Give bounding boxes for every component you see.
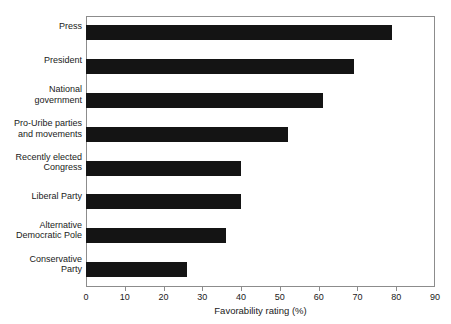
chart-figure: PressPresidentNationalgovernmentPro-Urib… [0, 0, 451, 324]
tick-label: 40 [236, 292, 246, 303]
tick-mark [319, 287, 320, 291]
bar-row [86, 253, 435, 287]
tick-mark [164, 287, 165, 291]
category-label: AlternativeDemocratic Pole [0, 219, 82, 240]
tick-mark [125, 287, 126, 291]
category-label-line: and movements [0, 128, 82, 139]
bar [86, 59, 354, 74]
bar-row [86, 16, 435, 50]
tick-mark [280, 287, 281, 291]
category-axis-labels: PressPresidentNationalgovernmentPro-Urib… [0, 16, 82, 287]
tick-mark [396, 287, 397, 291]
tick-mark [357, 287, 358, 291]
tick-label: 50 [275, 292, 285, 303]
tick-mark [241, 287, 242, 291]
bar-row [86, 219, 435, 253]
bar-row [86, 84, 435, 118]
category-label-line: Pro-Uribe parties [0, 118, 82, 129]
tick-label: 90 [430, 292, 440, 303]
bar [86, 127, 288, 142]
x-axis-title: Favorability rating (%) [86, 305, 435, 317]
category-label: ConservativeParty [0, 253, 82, 274]
bar-row [86, 118, 435, 152]
category-label-line: government [0, 94, 82, 105]
bar [86, 228, 226, 243]
tick-label: 30 [197, 292, 207, 303]
tick-label: 20 [159, 292, 169, 303]
category-label: President [0, 55, 82, 66]
category-label: Nationalgovernment [0, 84, 82, 105]
x-axis-ticks: 0102030405060708090 [86, 287, 435, 307]
bar [86, 262, 187, 277]
tick-label: 60 [314, 292, 324, 303]
bar [86, 93, 323, 108]
category-label-line: Recently elected [0, 151, 82, 162]
category-label-line: Press [0, 21, 82, 32]
category-label-line: Liberal Party [0, 191, 82, 202]
caption-remnant [0, 0, 451, 10]
tick-label: 10 [120, 292, 130, 303]
bar-row [86, 50, 435, 84]
category-label: Liberal Party [0, 191, 82, 202]
category-label: Pro-Uribe partiesand movements [0, 118, 82, 139]
tick-label: 80 [391, 292, 401, 303]
category-label-line: Alternative [0, 219, 82, 230]
bar [86, 161, 241, 176]
category-label: Press [0, 21, 82, 32]
bar [86, 25, 392, 40]
category-label-line: Democratic Pole [0, 230, 82, 241]
category-label-line: President [0, 55, 82, 66]
category-label-line: Conservative [0, 253, 82, 264]
bar [86, 194, 241, 209]
bar-row [86, 152, 435, 186]
category-label-line: National [0, 84, 82, 95]
category-label-line: Party [0, 264, 82, 275]
tick-label: 0 [83, 292, 88, 303]
bar-row [86, 185, 435, 219]
tick-mark [202, 287, 203, 291]
tick-label: 70 [352, 292, 362, 303]
category-label-line: Congress [0, 162, 82, 173]
category-label: Recently electedCongress [0, 151, 82, 172]
bars-layer [86, 16, 435, 287]
